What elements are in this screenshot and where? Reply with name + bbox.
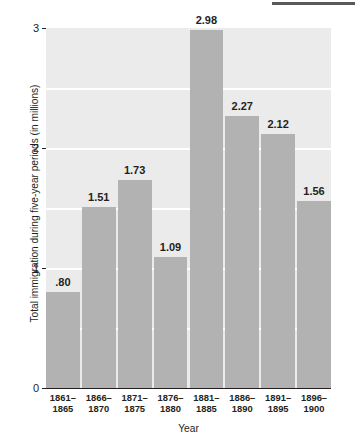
bar[interactable] — [190, 30, 224, 388]
x-tick-line1: 1876– — [154, 392, 188, 403]
x-tick-line2: 1870 — [82, 403, 116, 414]
bar-value-label: 1.56 — [284, 185, 344, 197]
x-axis-title: Year — [46, 423, 331, 434]
x-tick-line1: 1891– — [261, 392, 295, 403]
x-tick-line2: 1895 — [261, 403, 295, 414]
x-tick-line1: 1886– — [225, 392, 259, 403]
x-axis-line — [42, 388, 331, 389]
x-tick-line2: 1885 — [190, 403, 224, 414]
bar-slot: 2.12 — [261, 28, 295, 388]
x-tick-line2: 1875 — [118, 403, 152, 414]
x-tick-line2: 1880 — [154, 403, 188, 414]
bar-slot: .80 — [46, 28, 80, 388]
x-tick-line2: 1900 — [297, 403, 331, 414]
x-axis-tick-labels: 1861– 1865 1866– 1870 1871– 1875 1876– 1… — [46, 392, 331, 415]
bar-slot: 1.56 — [297, 28, 331, 388]
x-tick-line1: 1871– — [118, 392, 152, 403]
bar-series: .80 1.51 1.73 1.09 2.98 2.27 — [46, 28, 331, 388]
immigration-bar-chart-figure: Total immigration during five-year perio… — [0, 0, 355, 447]
bar-slot: 1.09 — [154, 28, 188, 388]
bar[interactable] — [225, 116, 259, 388]
plot-area: .80 1.51 1.73 1.09 2.98 2.27 — [46, 28, 331, 388]
bar[interactable] — [118, 180, 152, 388]
x-tick-line2: 1890 — [225, 403, 259, 414]
bar[interactable] — [46, 292, 80, 388]
x-tick-label: 1891– 1895 — [261, 392, 295, 415]
x-tick-label: 1896– 1900 — [297, 392, 331, 415]
bar[interactable] — [82, 207, 116, 388]
y-tick-label-1: 1 — [13, 262, 39, 274]
y-tick-label-3: 3 — [13, 22, 39, 34]
x-tick-line1: 1866– — [82, 392, 116, 403]
top-decorative-rule — [272, 2, 355, 5]
x-tick-label: 1871– 1875 — [118, 392, 152, 415]
bar[interactable] — [154, 257, 188, 388]
x-tick-line1: 1881– — [190, 392, 224, 403]
bar[interactable] — [297, 201, 331, 388]
bar-slot: 2.98 — [190, 28, 224, 388]
x-tick-line1: 1896– — [297, 392, 331, 403]
x-tick-line1: 1861– — [46, 392, 80, 403]
x-tick-label: 1866– 1870 — [82, 392, 116, 415]
x-tick-label: 1886– 1890 — [225, 392, 259, 415]
y-tick-label-0: 0 — [13, 382, 39, 394]
x-tick-label: 1876– 1880 — [154, 392, 188, 415]
y-tick-label-2: 2 — [13, 142, 39, 154]
y-axis-title: Total immigration during five-year perio… — [29, 69, 40, 339]
bar-slot: 1.51 — [82, 28, 116, 388]
x-tick-label: 1881– 1885 — [190, 392, 224, 415]
bar[interactable] — [261, 134, 295, 388]
x-tick-label: 1861– 1865 — [46, 392, 80, 415]
x-tick-line2: 1865 — [46, 403, 80, 414]
bar-slot: 1.73 — [118, 28, 152, 388]
bar-value-label: 2.98 — [176, 14, 236, 26]
bar-slot: 2.27 — [225, 28, 259, 388]
